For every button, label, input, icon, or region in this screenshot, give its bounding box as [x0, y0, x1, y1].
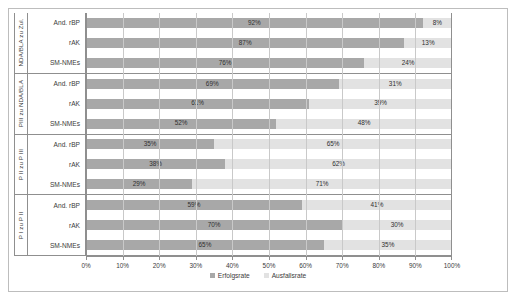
bar-group: P I zu P IIAnd. rBPrAKSM-NMEs59%41%70%30…: [14, 195, 452, 256]
group-label: P II zu P III: [14, 135, 28, 195]
bar-value-label: 69%: [86, 81, 339, 87]
bar-segment-ausfallsrate: 62%: [225, 159, 452, 169]
x-tick-label: 50%: [263, 262, 276, 269]
bar-value-label: 59%: [86, 202, 302, 208]
bar-value-label: 35%: [86, 141, 214, 147]
bar-value-label: 35%: [324, 242, 452, 248]
bar-value-label: 41%: [302, 202, 452, 208]
legend-label: Erfolgsrate: [218, 272, 250, 279]
x-tick-label: 20%: [153, 262, 166, 269]
x-tick-label: 70%: [336, 262, 349, 269]
bar-value-label: 65%: [86, 242, 324, 248]
bar-value-label: 38%: [86, 161, 225, 167]
bar-rows: 35%65%38%62%29%71%: [86, 135, 452, 195]
x-tick: [232, 256, 233, 260]
bar-value-label: 70%: [86, 222, 342, 228]
x-tick: [379, 256, 380, 260]
x-tick-label: 80%: [372, 262, 385, 269]
bar-value-label: 52%: [86, 120, 276, 126]
legend-swatch-icon: [264, 273, 269, 278]
x-tick: [451, 256, 452, 260]
category-label: And. rBP: [28, 135, 85, 155]
row-label-column: And. rBPrAKSM-NMEs: [28, 13, 86, 73]
bar-value-label: 76%: [86, 60, 364, 66]
bar-value-label: 24%: [364, 60, 452, 66]
bar-value-label: 39%: [309, 100, 452, 106]
bar-value-label: 48%: [276, 120, 452, 126]
x-tick: [196, 256, 197, 260]
bar-value-label: 87%: [86, 40, 404, 46]
bar-row: 70%30%: [86, 215, 452, 235]
bar-row: 59%41%: [86, 195, 452, 215]
bar-row: 69%31%: [86, 74, 452, 94]
bar-segment-ausfallsrate: 71%: [192, 179, 452, 189]
x-tick: [306, 256, 307, 260]
bar-segment-ausfallsrate: 13%: [404, 38, 452, 48]
bar-segment-erfolgsrate: 65%: [86, 240, 324, 250]
bar-segment-ausfallsrate: 31%: [339, 79, 452, 89]
bar-segment-erfolgsrate: 29%: [86, 179, 192, 189]
bar-row: 61%39%: [86, 94, 452, 114]
bar-segment-ausfallsrate: 35%: [324, 240, 452, 250]
bar-rows: 59%41%70%30%65%35%: [86, 195, 452, 255]
chart-legend: ErfolgsrateAusfallsrate: [0, 272, 516, 279]
group-label: NDA/BLA zu Zul.: [14, 13, 28, 73]
bar-segment-ausfallsrate: 48%: [276, 119, 452, 129]
x-tick: [123, 256, 124, 260]
group-label-text: PIII zu NDA/BLA: [18, 80, 25, 127]
category-label: SM-NMEs: [28, 53, 85, 73]
group-label: P I zu P II: [14, 195, 28, 255]
category-label: And. rBP: [28, 74, 85, 94]
legend-item[interactable]: Erfolgsrate: [210, 272, 250, 279]
bar-value-label: 29%: [86, 181, 192, 187]
bar-value-label: 13%: [404, 40, 452, 46]
row-label-column: And. rBPrAKSM-NMEs: [28, 135, 86, 195]
group-label-text: NDA/BLA zu Zul.: [18, 19, 25, 67]
bar-segment-ausfallsrate: 30%: [342, 220, 452, 230]
group-label-text: P II zu P III: [18, 149, 25, 180]
x-tick-label: 100%: [444, 262, 460, 269]
bar-value-label: 62%: [225, 161, 452, 167]
x-tick: [342, 256, 343, 260]
bar-row: 35%65%: [86, 135, 452, 155]
bar-rows: 92%8%87%13%76%24%: [86, 13, 452, 73]
x-tick: [159, 256, 160, 260]
bar-row: 87%13%: [86, 33, 452, 53]
bar-segment-erfolgsrate: 70%: [86, 220, 342, 230]
bar-value-label: 61%: [86, 100, 309, 106]
bar-segment-erfolgsrate: 52%: [86, 119, 276, 129]
category-label: rAK: [28, 154, 85, 174]
category-label: And. rBP: [28, 195, 85, 215]
bar-row: 92%8%: [86, 13, 452, 33]
bar-value-label: 31%: [339, 81, 452, 87]
x-tick-label: 30%: [189, 262, 202, 269]
bar-rows: 69%31%61%39%52%48%: [86, 74, 452, 134]
x-tick: [86, 256, 87, 260]
bar-segment-ausfallsrate: 24%: [364, 58, 452, 68]
legend-label: Ausfallsrate: [272, 272, 306, 279]
bar-segment-ausfallsrate: 39%: [309, 99, 452, 109]
category-label: And. rBP: [28, 13, 85, 33]
bar-segment-erfolgsrate: 61%: [86, 99, 309, 109]
x-tick-label: 10%: [116, 262, 129, 269]
bar-value-label: 71%: [192, 181, 452, 187]
group-label-text: P I zu P II: [18, 211, 25, 239]
category-label: SM-NMEs: [28, 174, 85, 194]
bar-segment-erfolgsrate: 92%: [86, 18, 423, 28]
group-label: PIII zu NDA/BLA: [14, 74, 28, 134]
bar-group: PIII zu NDA/BLAAnd. rBPrAKSM-NMEs69%31%6…: [14, 74, 452, 135]
bar-value-label: 30%: [342, 222, 452, 228]
category-label: SM-NMEs: [28, 235, 85, 255]
bar-segment-erfolgsrate: 76%: [86, 58, 364, 68]
x-tick-label: 90%: [409, 262, 422, 269]
bar-segment-erfolgsrate: 59%: [86, 200, 302, 210]
x-tick-label: 40%: [226, 262, 239, 269]
legend-swatch-icon: [210, 273, 215, 278]
group-list: NDA/BLA zu Zul.And. rBPrAKSM-NMEs92%8%87…: [14, 13, 452, 256]
plot-area: NDA/BLA zu Zul.And. rBPrAKSM-NMEs92%8%87…: [14, 13, 502, 257]
bar-value-label: 8%: [423, 20, 452, 26]
x-tick: [415, 256, 416, 260]
bar-segment-erfolgsrate: 35%: [86, 139, 214, 149]
legend-item[interactable]: Ausfallsrate: [264, 272, 306, 279]
row-label-column: And. rBPrAKSM-NMEs: [28, 195, 86, 255]
